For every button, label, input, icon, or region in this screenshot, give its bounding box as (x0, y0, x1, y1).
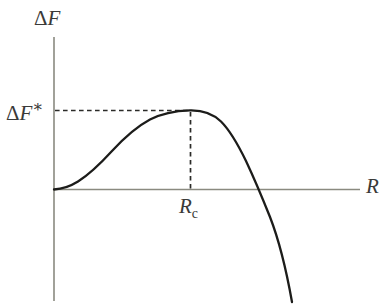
plot-canvas (0, 0, 389, 307)
free-energy-curve (54, 110, 292, 302)
y-axis-label: ΔF (34, 8, 60, 29)
critical-radius-subscript-glyph: c (192, 206, 198, 221)
x-axis-label: R (366, 176, 379, 197)
delta-f-star-delta-glyph: Δ (6, 101, 20, 125)
critical-radius-label: Rc (179, 196, 198, 221)
y-axis-f-glyph: F (48, 6, 61, 30)
y-axis-delta-glyph: Δ (34, 6, 48, 30)
critical-radius-base-glyph: R (179, 194, 192, 218)
delta-f-star-label: ΔF∗ (6, 99, 43, 124)
delta-f-star-f-glyph: F (20, 101, 33, 125)
delta-f-star-asterisk-glyph: ∗ (32, 97, 43, 116)
free-energy-nucleation-figure: ΔF ΔF∗ Rc R (0, 0, 389, 307)
